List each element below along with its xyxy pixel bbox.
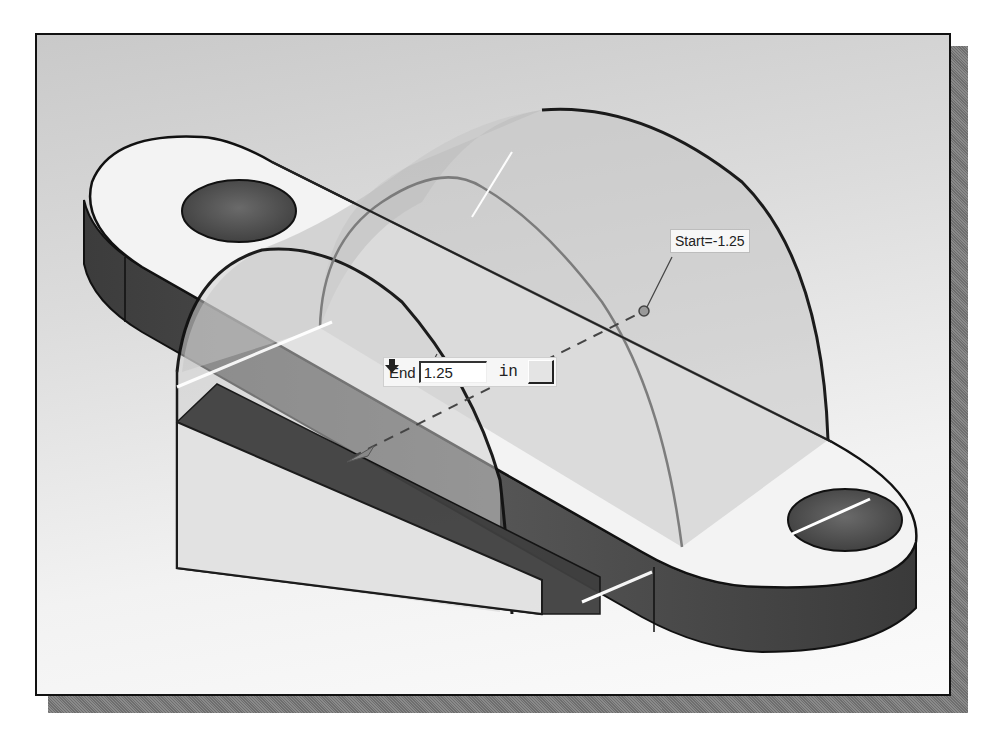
direction-flip-button[interactable]	[528, 360, 554, 384]
start-dimension-label[interactable]: Start=-1.25	[670, 229, 750, 253]
start-dimension-text: Start=-1.25	[675, 233, 745, 249]
end-dimension-widget: End in	[383, 357, 557, 387]
hole-right[interactable]	[788, 489, 902, 551]
end-unit-label: in	[499, 363, 518, 381]
graphics-viewport[interactable]: Start=-1.25 End in	[35, 33, 951, 696]
down-arrow-icon	[384, 358, 400, 374]
start-handle[interactable]	[639, 306, 649, 316]
end-dimension-input[interactable]	[419, 361, 487, 383]
hole-left[interactable]	[182, 180, 296, 242]
